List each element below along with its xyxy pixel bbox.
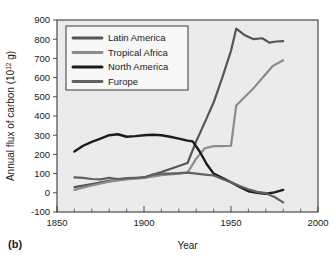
x-tick-label: 1950 <box>220 217 241 228</box>
panel-label: (b) <box>8 238 22 250</box>
x-tick-label: 2000 <box>307 217 328 228</box>
y-tick-label: -100 <box>31 206 50 217</box>
y-tick-label: 800 <box>34 34 50 45</box>
x-axis-title: Year <box>177 240 198 251</box>
y-tick-label: 200 <box>34 149 50 160</box>
legend-label-north-america: North America <box>108 61 169 72</box>
legend-label-tropical-africa: Tropical Africa <box>108 47 169 58</box>
x-tick-label: 1850 <box>46 217 67 228</box>
y-tick-label: 400 <box>34 110 50 121</box>
y-tick-label: 900 <box>34 14 50 25</box>
y-tick-label: 500 <box>34 91 50 102</box>
x-tick-label: 1900 <box>133 217 154 228</box>
legend-label-latin-america: Latin America <box>108 32 166 43</box>
y-tick-label: 0 <box>45 187 50 198</box>
figure-panel-b: -100010020030040050060070080090018501900… <box>0 0 334 258</box>
y-tick-label: 100 <box>34 168 50 179</box>
y-tick-label: 600 <box>34 72 50 83</box>
y-tick-label: 300 <box>34 130 50 141</box>
line-chart: -100010020030040050060070080090018501900… <box>0 0 334 258</box>
y-axis-title-text: Annual flux of carbon (1012 g) <box>5 51 16 181</box>
y-tick-label: 700 <box>34 53 50 64</box>
legend-label-furope: Furope <box>108 76 138 87</box>
y-axis-title: Annual flux of carbon (1012 g) <box>5 51 16 181</box>
